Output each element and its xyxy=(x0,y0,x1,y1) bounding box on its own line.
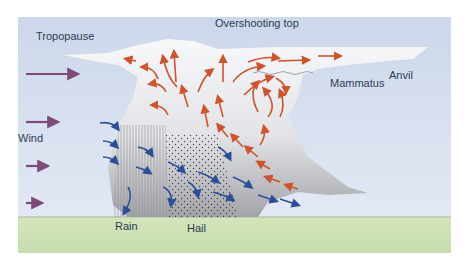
ground xyxy=(18,217,451,253)
label-rain: Rain xyxy=(115,220,138,232)
label-overshooting-top: Overshooting top xyxy=(215,17,299,29)
thunderstorm-diagram: Tropopause Overshooting top Mammatus Anv… xyxy=(18,17,451,253)
label-hail: Hail xyxy=(187,222,206,234)
label-anvil: Anvil xyxy=(389,69,413,81)
diagram-graphic xyxy=(18,17,451,253)
label-wind: Wind xyxy=(18,132,43,144)
label-tropopause: Tropopause xyxy=(36,30,94,42)
label-mammatus: Mammatus xyxy=(330,77,384,89)
